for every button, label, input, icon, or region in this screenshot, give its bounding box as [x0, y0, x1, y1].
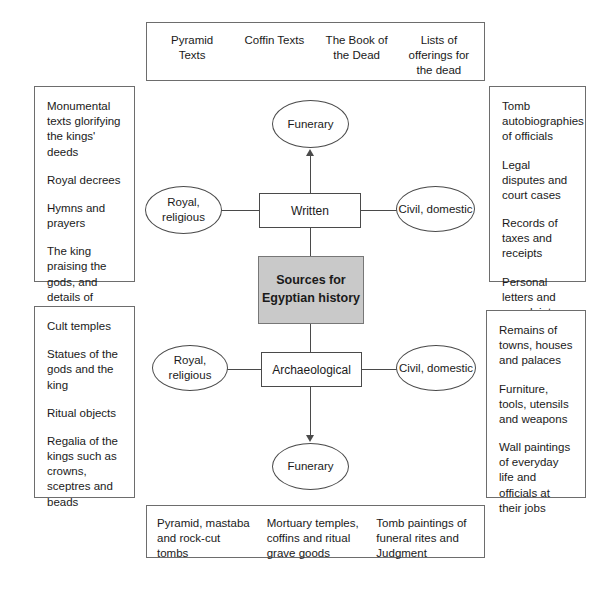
node-central-sources: Sources for Egyptian history — [258, 256, 364, 324]
node-archaeological-royal-religious: Royal, religious — [152, 345, 228, 391]
panel-archaeological-civil-domestic-item-1: Furniture, tools, utensils and weapons — [499, 382, 575, 428]
node-archaeological-royal-religious-label: Royal, religious — [153, 353, 227, 383]
connector-archaeological-to-civil-domestic — [362, 369, 397, 370]
panel-archaeological-civil-domestic-item-0: Remains of towns, houses and palaces — [499, 323, 575, 369]
diagram-canvas: Pyramid Texts Coffin Texts The Book of t… — [0, 0, 615, 598]
node-written-funerary: Funerary — [272, 100, 349, 148]
panel-written-royal-religious-item-2: Hymns and prayers — [47, 201, 124, 231]
node-archaeological-civil-domestic: Civil, domestic — [396, 345, 476, 391]
panel-written-civil-domestic-item-0: Tomb autobiographies of officials — [502, 99, 575, 145]
connector-royal-religious-to-archaeological — [227, 369, 261, 370]
panel-written-royal-religious: Monumental texts glorifying the kings' d… — [34, 86, 135, 282]
panel-written-funerary-item-3: Lists of offerings for the dead — [398, 33, 480, 79]
panel-written-funerary-item-0: Pyramid Texts — [151, 33, 233, 63]
node-written-royal-religious: Royal, religious — [145, 186, 222, 234]
panel-archaeological-funerary-item-1: Mortuary temples, coffins and ritual gra… — [261, 516, 371, 562]
connector-written-to-funerary — [310, 155, 311, 193]
panel-written-funerary: Pyramid Texts Coffin Texts The Book of t… — [146, 22, 485, 81]
node-written-civil-domestic-label: Civil, domestic — [398, 202, 472, 217]
arrowhead-written-to-funerary — [306, 149, 314, 156]
panel-written-royal-religious-item-1: Royal decrees — [47, 173, 124, 188]
node-archaeological-label: Archaeological — [272, 363, 351, 377]
panel-archaeological-funerary: Pyramid, mastaba and rock-cut tombs Mort… — [146, 505, 485, 558]
node-archaeological-civil-domestic-label: Civil, domestic — [399, 361, 473, 376]
panel-written-funerary-item-1: Coffin Texts — [233, 33, 315, 48]
panel-archaeological-royal-religious-item-3: Regalia of the kings such as crowns, sce… — [47, 434, 124, 510]
panel-archaeological-royal-religious-item-1: Statues of the gods and the king — [47, 347, 124, 393]
node-written-royal-religious-label: Royal, religious — [146, 195, 221, 225]
arrowhead-archaeological-to-funerary — [306, 435, 314, 442]
panel-archaeological-funerary-item-2: Tomb paintings of funeral rites and Judg… — [370, 516, 480, 562]
connector-central-to-written — [310, 228, 311, 256]
node-archaeological: Archaeological — [261, 352, 362, 387]
node-written-funerary-label: Funerary — [287, 117, 333, 132]
panel-archaeological-royal-religious-item-0: Cult temples — [47, 319, 124, 334]
panel-archaeological-funerary-item-0: Pyramid, mastaba and rock-cut tombs — [151, 516, 261, 562]
node-written-civil-domestic: Civil, domestic — [396, 186, 475, 232]
panel-archaeological-civil-domestic-item-2: Wall paintings of everyday life and offi… — [499, 440, 575, 516]
panel-written-funerary-item-2: The Book of the Dead — [316, 33, 398, 63]
node-archaeological-funerary-label: Funerary — [287, 459, 333, 474]
panel-written-civil-domestic-item-2: Records of taxes and receipts — [502, 216, 575, 262]
node-central-sources-label: Sources for Egyptian history — [259, 272, 363, 308]
node-written: Written — [259, 193, 361, 228]
panel-archaeological-royal-religious-item-2: Ritual objects — [47, 406, 124, 421]
connector-written-to-civil-domestic — [361, 210, 397, 211]
connector-archaeological-to-funerary — [310, 387, 311, 437]
connector-royal-religious-to-written — [221, 210, 260, 211]
panel-archaeological-royal-religious: Cult temples Statues of the gods and the… — [34, 306, 135, 498]
panel-written-civil-domestic: Tomb autobiographies of officials Legal … — [489, 86, 586, 282]
panel-archaeological-civil-domestic: Remains of towns, houses and palaces Fur… — [486, 310, 586, 498]
node-written-label: Written — [291, 204, 329, 218]
connector-central-to-archaeological — [310, 324, 311, 352]
panel-written-civil-domestic-item-1: Legal disputes and court cases — [502, 158, 575, 204]
node-archaeological-funerary: Funerary — [272, 443, 349, 490]
panel-written-royal-religious-item-0: Monumental texts glorifying the kings' d… — [47, 99, 124, 160]
